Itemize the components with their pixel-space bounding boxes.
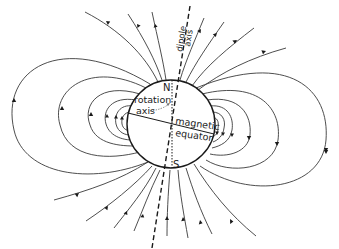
top-open-field-lines [85,12,286,90]
magnetic-field-diagram: N S rotation axis magnetic equator dipol… [0,0,339,249]
south-pole-label: S [173,159,179,170]
bottom-open-field-lines [54,162,256,238]
rotation-axis-label-2: axis [136,105,155,116]
rotation-axis-label-1: rotation [134,94,171,105]
north-pole-label: N [163,82,170,93]
